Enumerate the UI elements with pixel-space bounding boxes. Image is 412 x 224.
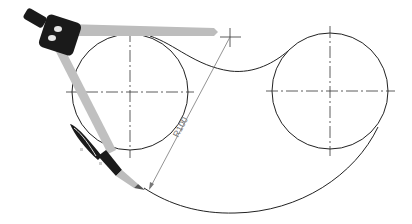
compass-drawing: R100 [0, 0, 412, 224]
upper-tangent-arc [150, 36, 288, 71]
dimension-arrowhead [149, 182, 154, 190]
dimension-label: R100 [171, 115, 190, 139]
compass-upper-arm [66, 24, 218, 36]
lower-tangent-arc [144, 127, 378, 213]
radius-dimension-line [150, 37, 230, 188]
compass-head [22, 7, 82, 56]
